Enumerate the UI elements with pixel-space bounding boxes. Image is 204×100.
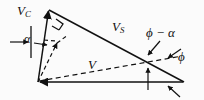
dashed-vertical-segment bbox=[44, 40, 57, 41]
label-v: V bbox=[88, 58, 96, 71]
label-alpha: α bbox=[24, 33, 30, 45]
vector-vc-line bbox=[38, 11, 49, 82]
label-phi: ϕ bbox=[178, 50, 185, 63]
alpha-arrow-right bbox=[34, 43, 47, 45]
phi-minus-alpha-leader bbox=[148, 41, 160, 55]
right-angle-marker-stem bbox=[52, 26, 59, 30]
phasor-diagram-figure: VC VS V ϕ − α ϕ α bbox=[0, 0, 204, 100]
dashed-parallel-segment bbox=[57, 35, 68, 43]
label-vc: VC bbox=[17, 4, 31, 19]
phi-bottom-leader bbox=[168, 86, 180, 97]
label-vs: VS bbox=[112, 20, 124, 35]
label-phi-minus-alpha: ϕ − α bbox=[146, 26, 175, 39]
